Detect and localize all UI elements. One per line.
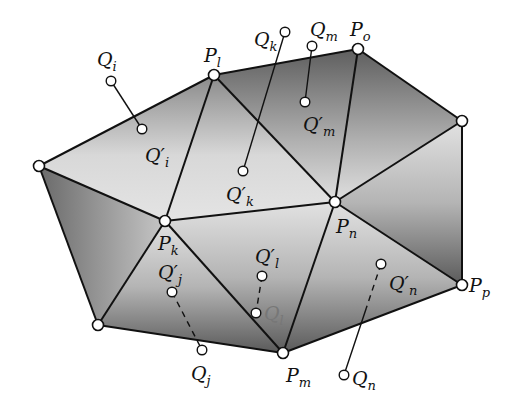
point-qj-marker [197,345,207,355]
label-pp: Pp [468,274,491,300]
point-qm-marker [307,41,317,51]
label-pm: Pm [285,364,311,390]
vertex-pn-point [330,197,341,208]
vertex-pl-point [209,70,220,81]
label-qj: Qj [191,362,211,388]
point-qprime-l-marker [257,271,267,281]
vertex-pm-point [278,348,289,359]
vertex-vr-point [457,116,468,127]
point-qprime-m-marker [300,97,310,107]
point-qn-marker [339,370,349,380]
point-qprime-n-marker [376,259,386,269]
triangulation-diagram: PlPoPkPnPpPmQiQ′iQkQ′kQmQ′mQ′jQjQ′lQlQ′n… [0,0,511,407]
vertex-po-point [353,44,364,55]
point-qprime-i-marker [137,124,147,134]
point-qi-marker [106,76,116,86]
label-qi: Qi [97,48,117,74]
point-ql-marker [251,308,261,318]
point-qprime-j-marker [167,287,177,297]
label-pl: Pl [203,44,221,70]
label-qk: Qk [254,28,278,54]
vertex-vl-point [34,161,45,172]
label-qn: Qn [352,367,376,393]
point-qprime-k-marker [238,166,248,176]
vertex-pp-point [457,280,468,291]
vertex-pk-point [160,216,171,227]
vertex-vb-point [93,320,104,331]
label-qm: Qm [310,18,338,44]
label-po: Po [349,18,371,44]
point-qk-marker [280,27,290,37]
